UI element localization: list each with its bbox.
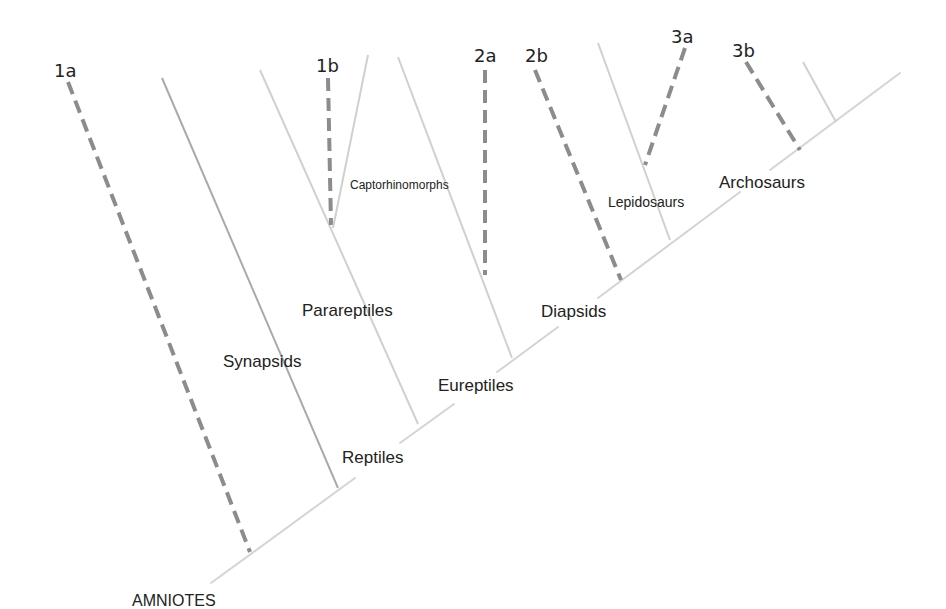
label-eureptiles: Eureptiles [438, 377, 514, 394]
marker-1b: 1b [316, 57, 339, 75]
branch-synapsids [162, 78, 338, 488]
branch-lepidosaurs [598, 43, 670, 240]
label-diapsids: Diapsids [541, 303, 606, 320]
branch-3a-dashed [645, 48, 685, 165]
branch-2b-dashed [535, 70, 621, 280]
branch-1b-dashed [328, 78, 331, 225]
label-amniotes-root: AMNIOTES [132, 593, 216, 609]
marker-3b: 3b [732, 42, 755, 60]
branch-eureptiles [398, 57, 512, 358]
marker-3a: 3a [671, 28, 693, 46]
marker-1a: 1a [54, 62, 76, 80]
marker-2a: 2a [474, 47, 496, 65]
label-reptiles: Reptiles [342, 449, 403, 466]
label-captorhinomorphs: Captorhinomorphs [350, 179, 449, 191]
label-parareptiles: Parareptiles [302, 302, 393, 319]
branch-captorhinomorphs [333, 55, 368, 228]
cladogram-canvas [0, 0, 946, 609]
branch-1a-dashed [68, 82, 250, 552]
label-lepidosaurs: Lepidosaurs [608, 195, 684, 209]
label-archosaurs: Archosaurs [719, 174, 805, 191]
marker-2b: 2b [525, 47, 548, 65]
main-axis [211, 73, 900, 583]
branch-archosaur-sister [803, 62, 836, 122]
branch-3b-dashed [746, 62, 800, 150]
label-synapsids: Synapsids [223, 353, 301, 370]
